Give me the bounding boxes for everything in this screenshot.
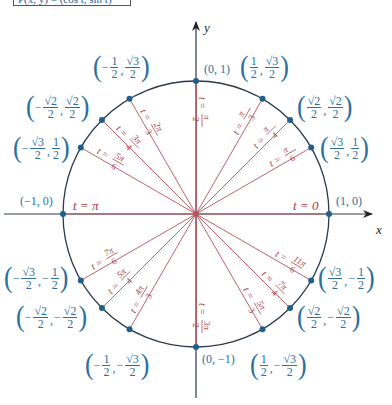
- t-label-0: t = 0: [293, 198, 319, 213]
- point-300: [260, 326, 266, 332]
- point-210: [78, 278, 84, 284]
- svg-text:π: π: [202, 115, 212, 120]
- t-label-330: t =11π6: [271, 245, 309, 279]
- coord-pi-3: ( 12, √32 ): [240, 54, 289, 80]
- point-330: [308, 278, 314, 284]
- point-30: [308, 145, 314, 151]
- coord-11pi-6: ( √32,− 12 ): [318, 265, 375, 291]
- coord-pi-6: ( √32, 12 ): [320, 135, 369, 161]
- t-label-60: t =π3: [227, 103, 260, 139]
- coord-5pi-4: (− √22,− √22 ): [16, 304, 87, 330]
- point-150: [78, 145, 84, 151]
- unit-circle-svg: t = 0t =π6t =π4t =π3t =π2t =2π3t =3π4t =…: [0, 0, 392, 405]
- svg-text:3π: 3π: [202, 320, 212, 331]
- svg-text:t =: t =: [230, 121, 246, 137]
- point-135: [99, 117, 105, 123]
- svg-text:2: 2: [191, 117, 201, 122]
- point-270: [193, 344, 199, 350]
- svg-text:t =: t =: [267, 153, 283, 169]
- t-label-180: t = π: [73, 198, 99, 213]
- coord-1-0: (1, 0): [336, 194, 362, 209]
- coord-neg1-0: (−1, 0): [20, 194, 53, 209]
- point-120: [127, 96, 133, 102]
- coord-pi-4: ( √22, √22 ): [297, 94, 353, 120]
- coord-3pi-4: (− √22, √22 ): [26, 94, 89, 120]
- coord-7pi-6: (− √32,− 12 ): [4, 265, 69, 291]
- point-225: [99, 305, 105, 311]
- svg-text:t =: t =: [197, 97, 208, 109]
- t-label-225: t =5π4: [102, 264, 138, 300]
- svg-text:t =: t =: [127, 299, 143, 315]
- t-label-270: t =3π2: [191, 303, 212, 333]
- t-label-30: t =π6: [265, 141, 301, 174]
- t-label-150: t =5π6: [92, 142, 128, 175]
- point-180: [60, 211, 66, 217]
- point-315: [287, 305, 293, 311]
- coord-0-1: (0, 1): [204, 62, 230, 77]
- svg-text:3: 3: [246, 306, 257, 315]
- point-240: [127, 326, 133, 332]
- t-label-315: t =7π4: [255, 266, 291, 302]
- coord-7pi-4: ( √22,− √22 ): [297, 304, 360, 330]
- point-0: [326, 211, 332, 217]
- point-45: [287, 117, 293, 123]
- point-90: [193, 78, 199, 84]
- ray-120: [130, 99, 197, 214]
- x-axis-label: x: [376, 222, 382, 238]
- svg-text:t =: t =: [250, 134, 266, 150]
- coord-0-neg1: (0, −1): [202, 352, 235, 367]
- svg-text:t = π: t = π: [73, 198, 99, 213]
- svg-text:t =: t =: [95, 145, 111, 161]
- t-label-135: t =3π4: [110, 120, 146, 156]
- coord-2pi-3: (− 12, √32 ): [93, 54, 150, 80]
- svg-text:6: 6: [109, 161, 118, 172]
- svg-text:3: 3: [143, 127, 154, 136]
- unit-circle-diagram: P(x, y) = (cos t, sin t) t = 0t =π6t =π4…: [0, 0, 392, 405]
- ray-210: [81, 214, 196, 281]
- svg-text:t =: t =: [241, 285, 257, 301]
- svg-text:t =: t =: [260, 268, 276, 284]
- coord-5pi-6: (− √32, 12 ): [13, 135, 70, 161]
- svg-text:6: 6: [288, 264, 297, 275]
- svg-text:2: 2: [191, 323, 201, 328]
- svg-text:t =: t =: [138, 107, 154, 123]
- svg-text:t =: t =: [114, 123, 130, 139]
- svg-text:t =: t =: [89, 256, 105, 272]
- t-label-300: t =5π3: [236, 283, 269, 319]
- ray-240: [130, 214, 197, 329]
- svg-text:3: 3: [143, 291, 154, 300]
- coord-4pi-3: (− 12,− √32 ): [85, 352, 150, 378]
- t-label-90: t =π2: [191, 97, 212, 127]
- t-label-240: t =4π3: [124, 281, 157, 317]
- svg-text:3: 3: [246, 113, 257, 122]
- y-axis-label: y: [204, 20, 210, 36]
- svg-text:t =: t =: [105, 280, 121, 296]
- point-60: [260, 96, 266, 102]
- svg-text:t =: t =: [274, 248, 290, 264]
- origin-point: [194, 212, 198, 216]
- coord-5pi-3: ( 12,− √32 ): [250, 352, 307, 378]
- svg-text:t =: t =: [197, 303, 208, 315]
- svg-text:6: 6: [288, 153, 297, 164]
- svg-text:t = 0: t = 0: [293, 198, 319, 213]
- svg-text:6: 6: [109, 256, 118, 267]
- t-label-45: t =π4: [248, 119, 284, 155]
